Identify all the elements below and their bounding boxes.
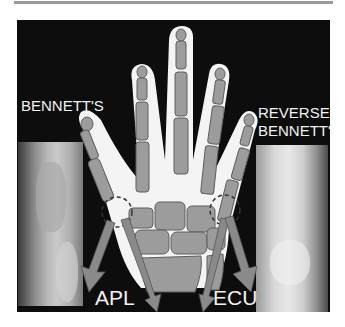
top-rule [14,1,333,4]
apl-tendon-arrow [81,220,115,292]
hand-skeleton-diagram [17,20,330,312]
reverse-bennett-label: REVERSE BENNETT'S [258,104,330,140]
index-finger-bones [136,66,149,192]
reverse-bennett-label-line1: REVERSE [258,104,330,122]
reverse-bennett-label-line2: BENNETT'S [258,122,330,140]
middle-finger-bones [174,29,188,174]
ecu-label: ECU [213,286,257,310]
carpal-bones [129,202,225,254]
ecu-tendon-arrow [225,216,257,292]
apl-label: APL [95,286,135,310]
figure-panel: BENNETT'S REVERSE BENNETT'S APL ECU [17,20,330,312]
bennett-label: BENNETT'S [21,97,104,114]
